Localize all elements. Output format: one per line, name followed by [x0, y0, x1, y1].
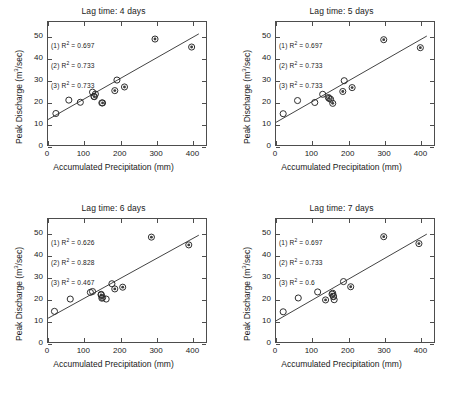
x-tick-label: 300 — [364, 149, 404, 158]
data-point-center — [101, 101, 104, 104]
y-tick — [276, 300, 280, 301]
x-tick-top — [349, 219, 350, 223]
data-point-open — [51, 308, 57, 314]
data-point-center — [150, 236, 153, 239]
x-tick-label: 0 — [255, 149, 295, 158]
x-tick — [349, 141, 350, 145]
x-tick-label: 400 — [400, 149, 440, 158]
y-tick-right — [202, 234, 206, 235]
x-tick-top — [276, 219, 277, 223]
y-axis-label-exponent: 3 — [241, 68, 247, 71]
data-point-center — [382, 235, 385, 238]
data-point-center — [154, 38, 157, 41]
x-tick — [276, 338, 277, 342]
x-tick-top — [193, 219, 194, 223]
y-axis-label-exponent: 3 — [13, 265, 19, 268]
x-tick-top — [121, 219, 122, 223]
x-tick-top — [193, 22, 194, 26]
r2-annotation-3: (3) R2 = 0.467 — [51, 277, 95, 286]
data-point-center — [417, 242, 420, 245]
y-tick — [276, 37, 280, 38]
y-axis-label: Peak Discharge (m3/sec) — [13, 50, 24, 144]
x-tick-label: 400 — [172, 149, 212, 158]
data-point-center — [419, 46, 422, 49]
y-tick — [48, 300, 52, 301]
x-tick-top — [312, 22, 313, 26]
y-tick — [48, 125, 52, 126]
data-point-open — [280, 309, 286, 315]
y-tick-label: 50 — [245, 228, 271, 237]
x-tick-top — [276, 22, 277, 26]
y-tick-right — [202, 59, 206, 60]
y-axis-label-post: /sec) — [242, 247, 252, 265]
y-tick-label: 50 — [17, 228, 43, 237]
x-tick-top — [157, 22, 158, 26]
y-tick-right — [202, 344, 206, 345]
x-tick — [349, 338, 350, 342]
y-tick-label: 50 — [17, 31, 43, 40]
y-axis-label-pre: Peak Discharge (m — [242, 72, 252, 144]
data-point-open — [315, 289, 321, 295]
y-tick — [276, 147, 280, 148]
x-tick-top — [349, 22, 350, 26]
y-axis-label-exponent: 3 — [241, 265, 247, 268]
y-tick-label: 50 — [245, 31, 271, 40]
y-axis-label-pre: Peak Discharge (m — [14, 72, 24, 144]
data-point-center — [332, 295, 335, 298]
y-tick — [48, 103, 52, 104]
data-point-center — [121, 286, 124, 289]
y-tick-right — [430, 103, 434, 104]
x-tick-label: 100 — [291, 149, 331, 158]
x-tick — [276, 141, 277, 145]
x-tick-top — [385, 219, 386, 223]
x-tick-label: 100 — [291, 346, 331, 355]
y-axis-label-post: /sec) — [242, 50, 252, 68]
x-tick — [157, 338, 158, 342]
x-tick-top — [48, 219, 49, 223]
data-point-center — [341, 90, 344, 93]
x-tick-top — [421, 22, 422, 26]
y-tick — [48, 322, 52, 323]
x-tick-top — [421, 219, 422, 223]
r2-annotation-2: (2) R2 = 0.733 — [51, 60, 95, 69]
x-tick-label: 0 — [27, 346, 67, 355]
data-point-center — [123, 86, 126, 89]
y-axis-label: Peak Discharge (m3/sec) — [241, 50, 252, 144]
x-tick — [84, 338, 85, 342]
y-tick-right — [202, 125, 206, 126]
x-tick-label: 200 — [328, 149, 368, 158]
y-tick-right — [202, 103, 206, 104]
y-tick — [48, 37, 52, 38]
y-tick — [48, 234, 52, 235]
x-tick-top — [84, 22, 85, 26]
x-tick-label: 0 — [255, 346, 295, 355]
x-axis-label: Accumulated Precipitation (mm) — [0, 359, 227, 369]
y-tick-right — [202, 278, 206, 279]
x-tick — [157, 141, 158, 145]
data-point-open — [280, 111, 286, 117]
figure-multipanel-scatter: Lag time: 4 days010020030040001020304050… — [0, 0, 455, 394]
x-tick-top — [157, 219, 158, 223]
r2-annotation-3: (3) R2 = 0.733 — [51, 80, 95, 89]
panel-title: Lag time: 7 days — [228, 203, 455, 213]
x-tick-top — [121, 22, 122, 26]
y-tick — [276, 125, 280, 126]
x-tick-label: 300 — [136, 149, 176, 158]
x-tick — [121, 141, 122, 145]
x-tick-label: 200 — [328, 346, 368, 355]
x-tick-label: 0 — [27, 149, 67, 158]
y-axis-label: Peak Discharge (m3/sec) — [13, 247, 24, 341]
x-tick-top — [48, 22, 49, 26]
data-point-open — [67, 296, 73, 302]
x-axis-label: Accumulated Precipitation (mm) — [228, 359, 455, 369]
x-tick-label: 200 — [100, 346, 140, 355]
x-tick — [193, 141, 194, 145]
x-tick — [312, 338, 313, 342]
y-tick-right — [430, 234, 434, 235]
panel-title: Lag time: 4 days — [0, 6, 227, 16]
r2-annotation-3: (3) R2 = 0.6 — [279, 277, 315, 286]
x-tick — [193, 338, 194, 342]
data-point-center — [187, 243, 190, 246]
r2-annotation-3: (3) R2 = 0.733 — [279, 80, 323, 89]
data-point-center — [349, 285, 352, 288]
